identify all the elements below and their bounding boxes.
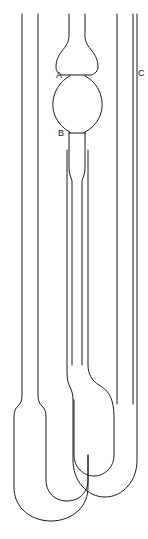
center-jacket-left-wall: [67, 14, 137, 497]
timing-bulb-left-profile: [53, 76, 70, 133]
capillary-taper-right: [82, 133, 85, 365]
center-jacket-right-wall: [74, 150, 114, 476]
measuring-tube-left-profile: [56, 14, 70, 75]
label-b: B: [58, 128, 64, 138]
label-c: C: [138, 68, 145, 78]
left-tube-inner-wall: [38, 14, 88, 501]
left-tube-outer-wall: [14, 14, 88, 521]
measuring-tube-right-profile: [85, 14, 98, 75]
viscometer-drawing: A B C: [0, 0, 148, 539]
label-a: A: [56, 70, 62, 80]
timing-bulb-right-profile: [85, 76, 102, 133]
capillary-taper-left: [69, 133, 72, 365]
viscometer-figure: A B C: [0, 0, 148, 539]
